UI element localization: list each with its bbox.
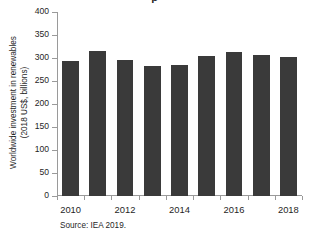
x-tick [111,196,112,200]
bars-layer [57,12,302,196]
bar [198,56,215,196]
x-tick [220,196,221,200]
x-tick-label: 2018 [278,204,299,215]
y-tick: 50 [52,173,57,174]
y-tick-label: 400 [35,6,49,16]
bar [62,61,79,196]
bar [89,51,106,196]
x-tick-label: 2010 [60,204,81,215]
x-tick-label: 2014 [169,204,190,215]
plot-area: 050100150200250300350400 201020122014201… [57,12,302,196]
y-tick: 250 [52,81,57,82]
x-tick [139,196,140,200]
y-tick-label: 200 [35,98,49,108]
bar [117,60,134,196]
x-tick [166,196,167,200]
source-note: Source: IEA 2019. [60,221,126,230]
y-tick: 350 [52,35,57,36]
y-axis-title: Worldwide investment in renewables (2018… [9,18,30,188]
y-tick: 150 [52,127,57,128]
bar [253,55,270,196]
x-tick [275,196,276,200]
x-tick [193,196,194,200]
y-tick-label: 300 [35,52,49,62]
x-tick-label: 2012 [115,204,136,215]
x-tick [302,196,303,200]
y-tick-label: 350 [35,29,49,39]
y-tick: 100 [52,150,57,151]
bar [144,66,161,196]
y-tick-label: 50 [39,167,49,177]
clipped-title: p [0,0,309,3]
x-tick-label: 2016 [224,204,245,215]
y-tick: 300 [52,58,57,59]
x-tick [84,196,85,200]
x-tick [57,196,58,200]
bar [171,65,188,196]
bar [280,57,297,196]
x-tick [248,196,249,200]
y-tick: 400 [52,12,57,13]
y-tick-label: 150 [35,121,49,131]
figure-container: p Worldwide investment in renewables (20… [0,0,309,241]
bar [226,52,243,196]
y-tick-label: 100 [35,144,49,154]
y-tick: 200 [52,104,57,105]
y-tick-label: 0 [44,190,49,200]
y-tick-label: 250 [35,75,49,85]
